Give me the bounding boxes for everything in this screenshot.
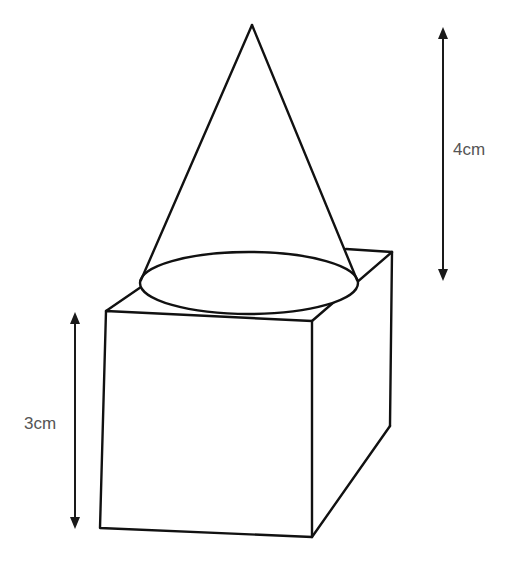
cone [140,25,358,314]
cone-height-label: 4cm [453,140,485,159]
cuboid-front-face [100,311,312,537]
arrow-down-icon [438,269,448,281]
cuboid-height-label: 3cm [24,414,56,433]
cuboid-back-right-edge [390,252,392,426]
cuboid-bottom-right-edge [312,426,390,537]
cuboid-height-dimension: 3cm [24,312,80,529]
arrow-down-icon [70,517,80,529]
arrow-up-icon [438,27,448,39]
cuboid-top-back-edge [346,249,392,252]
cone-on-cuboid-diagram: 4cm 3cm [0,0,514,562]
cone-base-ellipse [140,252,358,314]
cone-height-dimension: 4cm [438,27,485,281]
cone-left-slant [141,25,252,280]
cone-right-slant [252,25,357,280]
arrow-up-icon [70,312,80,324]
cuboid-top-left-edge [106,287,141,311]
